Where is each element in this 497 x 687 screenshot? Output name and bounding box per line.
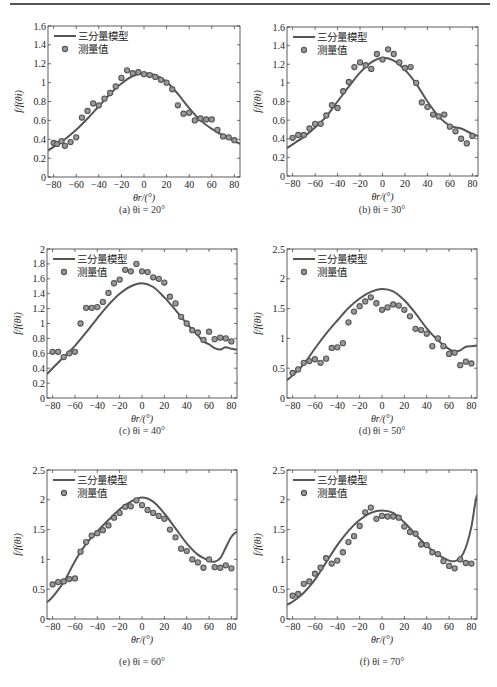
y-tick-label: 0.5: [273, 584, 286, 595]
caption-f: (f) θi = 70°: [272, 656, 492, 667]
plot-area-frame: [287, 470, 477, 619]
measured-point: [407, 529, 412, 534]
measured-point: [351, 534, 356, 539]
measured-point: [329, 561, 334, 566]
y-tick-label: 2.5: [273, 465, 286, 476]
y-tick-label: 2: [280, 494, 285, 505]
legend-marker-swatch: [301, 490, 306, 495]
measured-point: [357, 523, 362, 528]
measured-point: [301, 581, 306, 586]
measured-point: [402, 524, 407, 529]
chart-panel-f: −80−60−40−2002040608000.511.522.5f/f(θi)…: [0, 0, 497, 687]
x-tick-label: −80: [285, 621, 301, 632]
measured-point: [446, 563, 451, 568]
x-tick-label: 20: [399, 621, 409, 632]
measured-point: [463, 560, 468, 565]
chart-f: −80−60−40−2002040608000.511.522.5f/f(θi)…: [0, 0, 497, 687]
measured-point: [385, 514, 390, 519]
y-tick-label: 1: [280, 554, 285, 565]
measured-point: [312, 571, 317, 576]
measured-point: [335, 558, 340, 563]
measured-point: [424, 542, 429, 547]
measured-point: [430, 550, 435, 555]
measured-point: [374, 516, 379, 521]
y-tick-label: 1.5: [273, 524, 286, 535]
measured-point: [296, 591, 301, 596]
measured-point: [324, 556, 329, 561]
measured-point: [435, 551, 440, 556]
measured-point: [441, 559, 446, 564]
x-tick-label: −60: [307, 621, 323, 632]
measured-point: [346, 540, 351, 545]
x-tick-label: 40: [422, 621, 432, 632]
y-axis-label: f/f(θi): [252, 532, 264, 555]
measured-point: [290, 593, 295, 598]
x-tick-label: −20: [352, 621, 368, 632]
x-tick-label: 60: [444, 621, 454, 632]
measured-point: [391, 514, 396, 519]
measured-point: [419, 542, 424, 547]
measured-point: [396, 515, 401, 520]
x-tick-label: 80: [466, 621, 476, 632]
legend-model-label: 三分量模型: [317, 474, 367, 486]
model-curve: [287, 495, 477, 605]
measured-point: [413, 531, 418, 536]
measured-point: [368, 505, 373, 510]
measured-point: [318, 565, 323, 570]
y-tick-label: 0: [280, 614, 285, 625]
measured-point: [458, 557, 463, 562]
x-tick-label: 0: [380, 621, 385, 632]
x-tick-label: −40: [329, 621, 345, 632]
measured-point: [340, 550, 345, 555]
legend-measured-label: 测量值: [317, 487, 348, 499]
measured-point: [379, 513, 384, 518]
measured-point: [307, 579, 312, 584]
measured-point: [363, 510, 368, 515]
x-axis-label: θr/(°): [371, 634, 394, 646]
measured-point: [452, 566, 457, 571]
measured-point: [469, 561, 474, 566]
